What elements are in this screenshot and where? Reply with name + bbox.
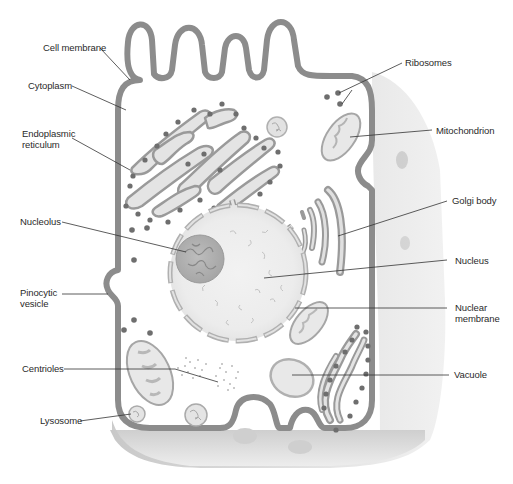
label-pinocytic-vesicle: Pinocytic vesicle	[20, 287, 57, 309]
label-nucleus: Nucleus	[455, 255, 489, 266]
lysosome-top	[267, 117, 287, 137]
label-text: Nuclear	[455, 302, 500, 313]
label-nuclear-membrane: Nuclear membrane	[455, 302, 500, 324]
label-nucleolus: Nucleolus	[20, 216, 61, 227]
label-text: Golgi body	[452, 195, 496, 206]
label-vacuole: Vacuole	[454, 369, 487, 380]
label-ribosomes: Ribosomes	[405, 57, 452, 68]
label-text: vesicle	[20, 298, 57, 309]
label-text: Endoplasmic	[22, 128, 75, 139]
label-text: Cytoplasm	[28, 80, 72, 91]
label-text: Ribosomes	[405, 57, 452, 68]
nucleolus-shape	[176, 235, 224, 283]
label-centrioles: Centrioles	[22, 363, 64, 374]
label-lysosome: Lysosome	[40, 415, 82, 426]
label-text: Lysosome	[40, 415, 82, 426]
cell-illustration	[0, 0, 513, 484]
label-text: Nucleolus	[20, 216, 61, 227]
label-endoplasmic-reticulum: Endoplasmic reticulum	[22, 128, 75, 150]
label-golgi-body: Golgi body	[452, 195, 496, 206]
label-text: Vacuole	[454, 369, 487, 380]
label-text: Cell membrane	[43, 42, 106, 53]
label-text: reticulum	[22, 139, 75, 150]
label-text: Mitochondrion	[436, 125, 494, 136]
label-text: Nucleus	[455, 255, 489, 266]
label-cytoplasm: Cytoplasm	[28, 80, 72, 91]
label-text: Pinocytic	[20, 287, 57, 298]
label-cell-membrane: Cell membrane	[43, 42, 106, 53]
label-text: membrane	[455, 313, 500, 324]
label-text: Centrioles	[22, 363, 64, 374]
cell-diagram: Cell membrane Cytoplasm Endoplasmic reti…	[0, 0, 513, 484]
label-mitochondrion: Mitochondrion	[436, 125, 494, 136]
